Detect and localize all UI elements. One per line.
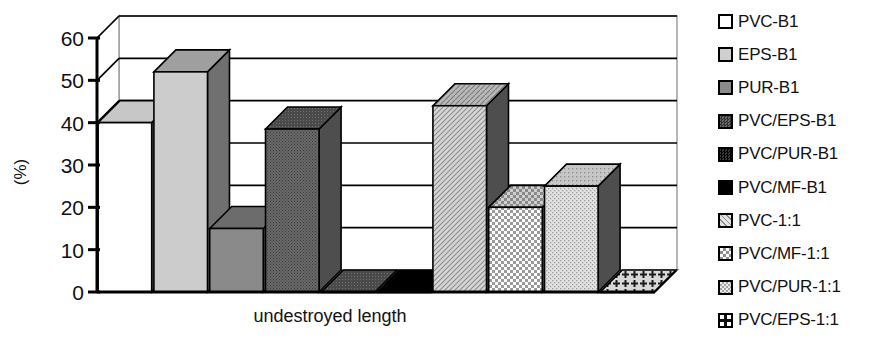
- swatch-black-icon: [718, 180, 733, 195]
- legend-item-2[interactable]: PUR-B1: [718, 71, 876, 104]
- y-tick-40: 40: [61, 112, 84, 135]
- y-tick-20: 20: [61, 196, 84, 219]
- y-tick-60: 60: [61, 27, 84, 50]
- swatch-light-gray-icon: [718, 47, 733, 62]
- legend-item-9[interactable]: PVC/EPS-1:1: [718, 304, 876, 337]
- swatch-checker-icon: [718, 246, 733, 261]
- legend-label: PVC/MF-1:1: [738, 244, 830, 264]
- legend-item-3[interactable]: PVC/EPS-B1: [718, 105, 876, 138]
- y-axis-title: (%): [11, 159, 30, 185]
- legend-label: PUR-B1: [738, 78, 799, 98]
- y-tick-0: 0: [72, 281, 84, 304]
- legend-label: PVC/EPS-B1: [738, 111, 836, 131]
- y-tick-30: 30: [61, 154, 84, 177]
- x-axis-title: undestroyed length: [253, 306, 406, 326]
- legend-item-7[interactable]: PVC/MF-1:1: [718, 237, 876, 270]
- bar-4: [266, 107, 342, 292]
- legend-item-8[interactable]: PVC/PUR-1:1: [718, 271, 876, 304]
- legend-label: PVC-1:1: [738, 211, 801, 231]
- legend-item-6[interactable]: PVC-1:1: [718, 204, 876, 237]
- swatch-dark-dots-icon: [718, 114, 733, 129]
- chart-screenshot: 0102030405060 (%) undestroyed length PVC…: [0, 0, 876, 348]
- legend-item-5[interactable]: PVC/MF-B1: [718, 171, 876, 204]
- legend-label: PVC/EPS-1:1: [738, 310, 839, 330]
- swatch-stipple-icon: [718, 280, 733, 295]
- legend-label: PVC-B1: [738, 12, 798, 32]
- swatch-very-dark-icon: [718, 147, 733, 162]
- swatch-white-icon: [718, 14, 733, 29]
- swatch-diagonal-icon: [718, 213, 733, 228]
- bar-chart: 0102030405060 (%) undestroyed length: [0, 0, 700, 348]
- y-axis-tick-labels: 0102030405060: [61, 27, 100, 304]
- y-tick-10: 10: [61, 239, 84, 262]
- legend-item-4[interactable]: PVC/PUR-B1: [718, 138, 876, 171]
- chart-canvas: 0102030405060 (%) undestroyed length: [0, 0, 700, 348]
- legend-label: EPS-B1: [738, 45, 797, 65]
- legend-label: PVC/MF-B1: [738, 178, 827, 198]
- legend-item-1[interactable]: EPS-B1: [718, 38, 876, 71]
- swatch-mid-gray-icon: [718, 80, 733, 95]
- legend-item-0[interactable]: PVC-B1: [718, 5, 876, 38]
- y-tick-50: 50: [61, 69, 84, 92]
- chart-legend: PVC-B1EPS-B1PUR-B1PVC/EPS-B1PVC/PUR-B1PV…: [718, 5, 876, 343]
- legend-label: PVC/PUR-B1: [738, 144, 838, 164]
- swatch-cross-plus-icon: [718, 313, 733, 328]
- bar-9: [545, 164, 621, 292]
- legend-label: PVC/PUR-1:1: [738, 277, 841, 297]
